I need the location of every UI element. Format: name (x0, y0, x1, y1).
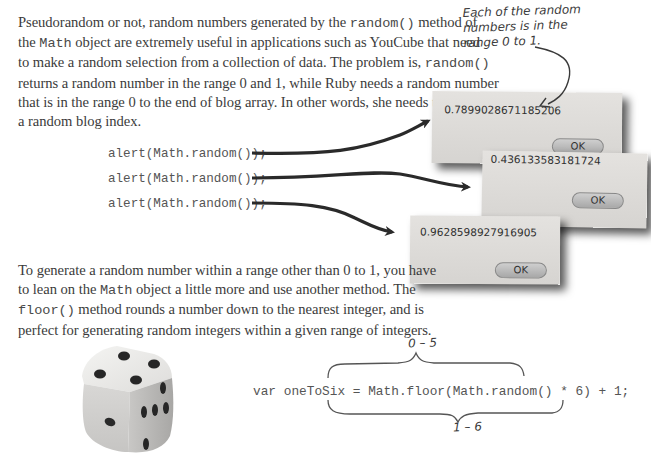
intro-line-6: a random blog index. (18, 112, 418, 131)
floor-explanation-paragraph: To generate a random number within a ran… (18, 261, 418, 340)
handwritten-annotation: Each of the random numbers is in the ran… (462, 2, 583, 51)
arrow-3 (252, 203, 392, 232)
alert-value: 0.7899028671185206 (444, 103, 561, 116)
intro-paragraph: Pseudorandom or not, random numbers gene… (18, 13, 418, 131)
code-alert-call-1: alert(Math.random()); (108, 147, 267, 161)
floor-line-3: floor() method rounds a number down to t… (18, 300, 418, 320)
ok-button[interactable]: OK (572, 192, 624, 209)
ok-button[interactable]: OK (495, 262, 547, 278)
alert-value: 0.436133583181724 (490, 153, 600, 167)
intro-line-4: returns a random number in the range 0 a… (18, 74, 418, 93)
floor-line-1: To generate a random number within a ran… (18, 261, 418, 280)
code-alert-call-3: alert(Math.random()); (108, 197, 267, 211)
floor-line-4: perfect for generating random integers w… (18, 321, 418, 340)
one-to-six-formula: var oneToSix = Math.floor(Math.random() … (253, 384, 629, 399)
dice-image (62, 340, 182, 460)
code-alert-call-2: alert(Math.random()); (108, 172, 267, 186)
top-brace (328, 353, 524, 378)
bottom-brace (328, 400, 563, 422)
intro-line-1: Pseudorandom or not, random numbers gene… (18, 13, 418, 33)
brace-label-0-to-5: 0 – 5 (408, 336, 437, 352)
floor-line-2: to lean on the Math object a little more… (18, 280, 418, 300)
brace-label-1-to-6: 1 – 6 (453, 420, 482, 436)
intro-line-5: that is in the range 0 to the end of blo… (18, 93, 418, 112)
arrow-2 (252, 173, 468, 187)
alert-value: 0.9628598927916905 (420, 226, 537, 239)
intro-line-3: to make a random selection from a collec… (18, 53, 418, 73)
intro-line-2: the Math object are extremely useful in … (18, 33, 418, 53)
annotation-line-3: range 0 to 1. (463, 32, 583, 51)
